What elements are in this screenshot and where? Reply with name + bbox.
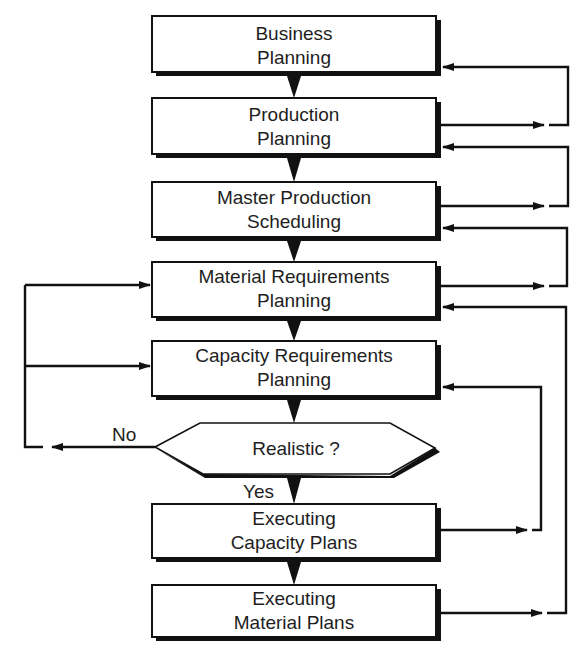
yes-label: Yes — [243, 481, 274, 502]
node-label-line2: Capacity Plans — [231, 532, 358, 553]
feedback-loop-exec-capacity-to-crp — [441, 387, 541, 530]
feedback-loop-production-to-business — [441, 67, 568, 125]
node-realistic-decision: Realistic ? — [155, 423, 440, 478]
down-arrow-icon — [287, 76, 301, 98]
node-label-line2: Planning — [257, 47, 331, 68]
node-label-line2: Planning — [257, 369, 331, 390]
node-label-line2: Planning — [257, 290, 331, 311]
down-arrow-icon — [287, 400, 301, 423]
feedback-loop-exec-material-to-mrp — [441, 307, 566, 613]
node-label-line2: Material Plans — [234, 612, 354, 633]
down-arrow-icon — [287, 241, 301, 262]
node-label-line1: Master Production — [217, 187, 371, 208]
down-arrow-icon — [287, 478, 301, 504]
node-material-requirements-planning: Material Requirements Planning — [152, 262, 441, 321]
decision-label: Realistic ? — [252, 438, 340, 459]
node-label-line2: Scheduling — [247, 211, 341, 232]
node-master-production-scheduling: Master Production Scheduling — [152, 182, 441, 241]
down-arrow-icon — [287, 158, 301, 182]
node-production-planning: Production Planning — [152, 98, 441, 158]
node-label-line1: Material Requirements — [198, 266, 389, 287]
node-label-line1: Production — [249, 104, 340, 125]
mrp-flowchart: Business Planning Production Planning Ma… — [0, 0, 582, 664]
node-executing-material-plans: Executing Material Plans — [152, 585, 441, 641]
no-loop-connector — [25, 285, 155, 447]
node-executing-capacity-plans: Executing Capacity Plans — [152, 504, 441, 562]
feedback-loop-mrp-to-mps — [441, 228, 567, 286]
down-arrow-icon — [287, 562, 301, 585]
down-arrow-icon — [287, 321, 301, 341]
no-label: No — [112, 424, 136, 445]
node-label-line1: Executing — [252, 508, 335, 529]
node-capacity-requirements-planning: Capacity Requirements Planning — [152, 341, 441, 400]
feedback-loop-mps-to-production — [441, 147, 568, 206]
node-label-line1: Business — [255, 23, 332, 44]
node-business-planning: Business Planning — [152, 16, 441, 76]
node-label-line1: Executing — [252, 588, 335, 609]
node-label-line1: Capacity Requirements — [195, 345, 392, 366]
node-label-line2: Planning — [257, 128, 331, 149]
